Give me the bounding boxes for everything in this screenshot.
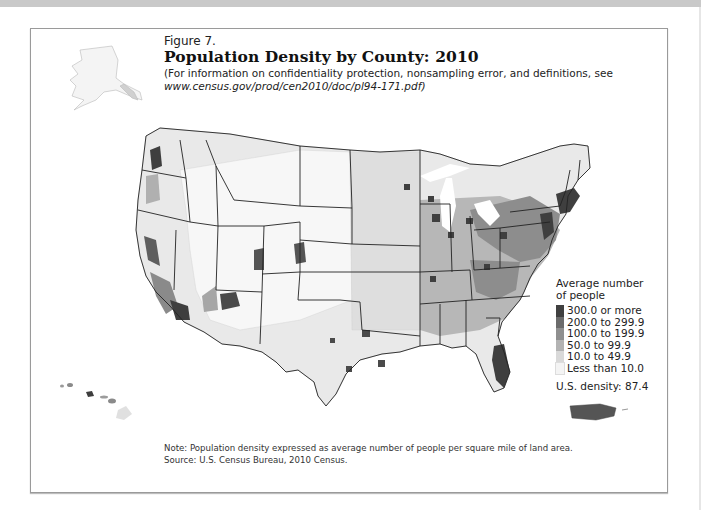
legend-swatch (556, 351, 564, 363)
us-density-value: U.S. density: 87.4 (556, 380, 648, 392)
legend-label: Less than 10.0 (567, 363, 644, 374)
legend-swatch (556, 317, 564, 329)
footnote: Note: Population density expressed as av… (164, 442, 573, 466)
hawaii-inset (60, 383, 132, 420)
alaska-inset (70, 46, 142, 110)
puerto-rico-inset (570, 404, 616, 420)
legend-item: 300.0 or more (556, 305, 648, 317)
legend-swatch (556, 305, 564, 317)
legend-label: 10.0 to 49.9 (567, 351, 631, 362)
legend-title-line1: Average number (556, 277, 648, 289)
top-edge-bar (0, 0, 701, 7)
legend-item: 10.0 to 49.9 (556, 351, 648, 363)
legend-label: 50.0 to 99.9 (567, 340, 631, 351)
legend-title: Average number of people (556, 277, 648, 301)
source-text: Source: U.S. Census Bureau, 2010 Census. (164, 454, 573, 466)
legend-swatch (556, 363, 564, 375)
legend-item: 100.0 to 199.9 (556, 328, 648, 340)
legend-label: 200.0 to 299.9 (567, 317, 644, 328)
legend-item: Less than 10.0 (556, 363, 648, 375)
legend-title-line2: of people (556, 289, 648, 301)
legend: Average number of people 300.0 or more 2… (556, 277, 648, 392)
legend-swatch (556, 328, 564, 340)
note-text: Note: Population density expressed as av… (164, 442, 573, 454)
legend-swatch (556, 340, 564, 352)
legend-label: 300.0 or more (567, 305, 642, 316)
legend-label: 100.0 to 199.9 (567, 328, 644, 339)
